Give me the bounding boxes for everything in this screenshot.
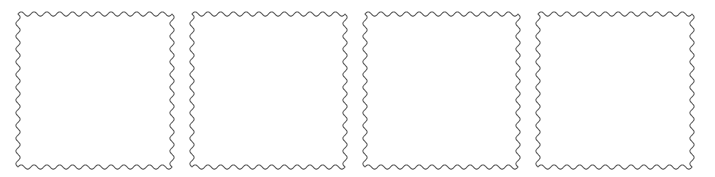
wavy-frames-canvas: Wavy square frame 1Wavy square frame 2Wa… <box>0 0 715 177</box>
wavy-square-frame-2: Wavy square frame 2 <box>190 12 347 169</box>
wavy-square-frame-4: Wavy square frame 4 <box>536 12 694 169</box>
wavy-square-frame-1: Wavy square frame 1 <box>16 12 174 169</box>
wavy-frames-svg: Wavy square frame 1Wavy square frame 2Wa… <box>0 0 715 177</box>
wavy-square-frame-3: Wavy square frame 3 <box>363 12 520 169</box>
frames-group: Wavy square frame 1Wavy square frame 2Wa… <box>16 12 694 169</box>
